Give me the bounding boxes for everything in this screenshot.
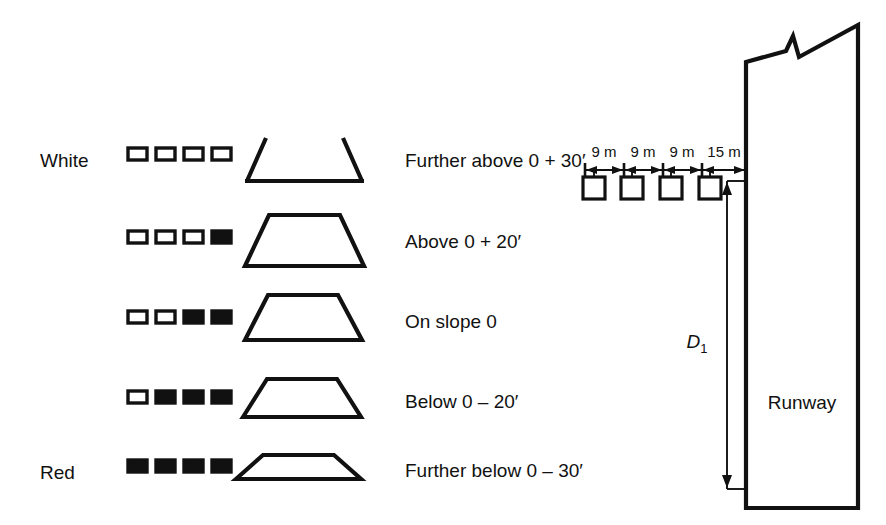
light-unit-white xyxy=(156,311,175,323)
light-unit-red xyxy=(212,231,231,243)
indication-row xyxy=(128,215,364,266)
light-unit-red xyxy=(184,311,203,323)
legend-label-red: Red xyxy=(40,462,75,483)
light-unit-plan xyxy=(660,177,682,199)
light-unit-red xyxy=(184,460,203,472)
light-unit-red xyxy=(212,460,231,472)
light-bar xyxy=(128,391,231,403)
distance-label-d1: D1 xyxy=(687,331,708,356)
light-unit-white xyxy=(156,231,175,243)
spacing-label: 15 m xyxy=(707,143,740,160)
light-unit-plan xyxy=(583,177,605,199)
distance-label-subscript: 1 xyxy=(700,341,707,356)
light-unit-plan xyxy=(699,177,721,199)
row-description: Further above 0 + 30′ xyxy=(405,150,586,171)
aircraft-view-trapezoid xyxy=(245,138,364,181)
light-unit-white xyxy=(184,148,203,160)
light-bar xyxy=(128,231,231,243)
papi-diagram: White Red Further above 0 + 30′ Above 0 … xyxy=(0,0,886,525)
spacing-label: 9 m xyxy=(591,143,616,160)
light-unit-white xyxy=(156,148,175,160)
indication-row xyxy=(128,379,361,417)
light-unit-red xyxy=(156,460,175,472)
light-unit-red xyxy=(184,391,203,403)
aircraft-view-trapezoid xyxy=(243,379,361,417)
row-description: On slope 0 xyxy=(405,311,497,332)
light-bar xyxy=(128,311,231,323)
indication-row xyxy=(128,295,362,340)
row-description: Above 0 + 20′ xyxy=(405,231,522,252)
light-unit-plan xyxy=(621,177,643,199)
runway-outline xyxy=(746,25,858,508)
diagram-canvas: White Red Further above 0 + 30′ Above 0 … xyxy=(0,0,886,525)
row-description: Further below 0 – 30′ xyxy=(405,460,583,481)
aircraft-view-trapezoid xyxy=(245,295,362,340)
light-unit-red xyxy=(156,391,175,403)
indication-row xyxy=(128,138,364,181)
light-unit-row-plan xyxy=(583,177,721,199)
spacing-label: 9 m xyxy=(630,143,655,160)
light-unit-red xyxy=(212,391,231,403)
light-unit-white xyxy=(212,148,231,160)
distance-dimension-d1 xyxy=(722,181,746,489)
light-unit-white xyxy=(128,231,147,243)
light-unit-white xyxy=(128,391,147,403)
light-unit-red xyxy=(212,311,231,323)
spacing-label: 9 m xyxy=(669,143,694,160)
aircraft-view-trapezoid xyxy=(245,215,364,266)
legend-label-white: White xyxy=(40,150,89,171)
light-bar xyxy=(128,148,231,160)
light-unit-red xyxy=(128,460,147,472)
aircraft-view-trapezoid xyxy=(236,455,361,479)
row-description: Below 0 – 20′ xyxy=(405,391,519,412)
light-unit-white xyxy=(128,148,147,160)
distance-label-letter: D xyxy=(687,331,701,352)
light-bar xyxy=(128,460,231,472)
light-unit-white xyxy=(184,231,203,243)
light-unit-white xyxy=(128,311,147,323)
indication-row xyxy=(128,455,361,479)
runway-label: Runway xyxy=(768,392,837,413)
